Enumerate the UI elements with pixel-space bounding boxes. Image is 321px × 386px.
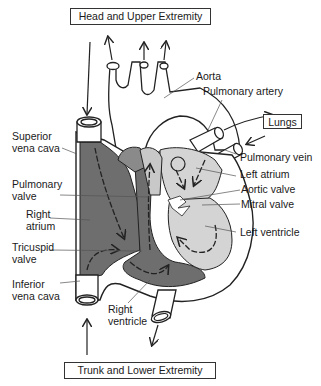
label-mitral-valve: Mitral valve: [241, 198, 294, 210]
label-right-atrium-1: Right: [26, 208, 51, 220]
label-right-ventricle-2: ventricle: [108, 315, 147, 327]
label-pulmonary-valve-2: valve: [12, 190, 37, 202]
label-pulmonary-valve-1: Pulmonary: [12, 178, 62, 190]
label-tricuspid-valve-2: valve: [12, 253, 37, 265]
label-pulmonary-artery: Pulmonary artery: [203, 85, 283, 97]
label-superior-vena-cava-1: Superior: [12, 130, 52, 142]
label-inferior-vena-cava-1: Inferior: [12, 278, 45, 290]
trunk-lower-extremity-box: Trunk and Lower Extremity: [64, 362, 216, 379]
label-right-ventricle-1: Right: [108, 303, 133, 315]
lungs-box: Lungs: [263, 114, 302, 129]
label-inferior-vena-cava-2: vena cava: [12, 290, 60, 302]
superior-vena-cava: [77, 117, 101, 142]
head-upper-extremity-box: Head and Upper Extremity: [70, 8, 211, 25]
label-pulmonary-vein: Pulmonary vein: [240, 151, 312, 163]
label-aorta: Aorta: [196, 70, 221, 82]
label-left-atrium: Left atrium: [240, 168, 290, 180]
label-right-atrium-2: atrium: [26, 220, 55, 232]
label-superior-vena-cava-2: vena cava: [12, 142, 60, 154]
label-aortic-valve: Aortic valve: [241, 183, 295, 195]
label-tricuspid-valve-1: Tricuspid: [12, 241, 54, 253]
inferior-vena-cava: [76, 275, 98, 305]
label-left-ventricle: Left ventricle: [240, 226, 300, 238]
upward-flow-arrows: [108, 37, 166, 60]
